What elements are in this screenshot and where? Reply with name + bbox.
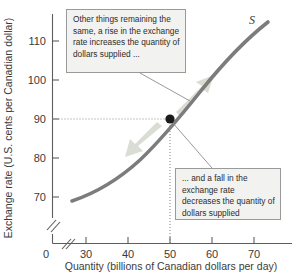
decrease-arrow [125,122,162,157]
y-tick-label-90: 90 [34,113,46,125]
rise-callout-leader [140,73,190,101]
fall-callout-text: ... and a fall in the exchange rate decr… [182,173,275,218]
y-tick-label-110: 110 [28,35,46,47]
fall-callout-box: ... and a fall in the exchange rate decr… [175,168,281,220]
rise-callout-box: Other things remaining the same, a rise … [66,9,186,73]
x-tick-label-0: 0 [43,248,49,260]
rise-callout-text: Other things remaining the same, a rise … [73,14,180,59]
equilibrium-point [165,114,174,123]
supply-of-dollars-chart: 110 100 90 80 70 0 30 40 50 60 70 Quanti… [0,0,298,273]
y-tick-label-80: 80 [34,152,46,164]
y-tick-label-100: 100 [28,74,46,86]
x-tick-label-50: 50 [164,248,176,260]
y-axis-title: Exchange rate (U.S. cents per Canadian d… [2,18,14,239]
x-tick-label-40: 40 [122,248,134,260]
y-tick-label-70: 70 [34,191,46,203]
x-tick-label-70: 70 [248,248,260,260]
supply-curve-label: S [249,13,255,27]
x-axis-title: Quantity (billions of Canadian dollars p… [65,260,277,272]
x-tick-label-30: 30 [80,248,92,260]
x-tick-label-60: 60 [206,248,218,260]
fall-callout-leader [172,122,212,168]
